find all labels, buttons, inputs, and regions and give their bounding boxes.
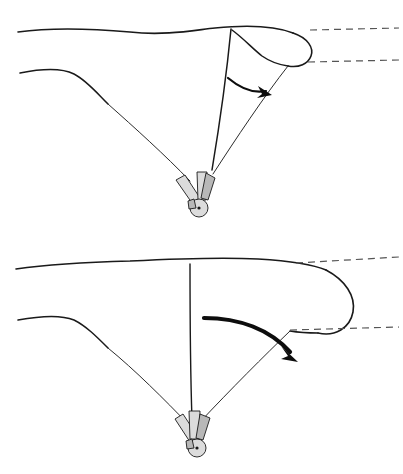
figure-root: Paraglider Wingtip Deflection Comparison <box>0 0 403 474</box>
bottom-canopy-leading-edge <box>16 258 326 270</box>
bottom-pilot-centre-dot <box>195 446 198 449</box>
diagram-canvas <box>0 0 403 474</box>
top-left-lower-surface <box>20 69 108 104</box>
panel-bottom <box>16 257 399 457</box>
top-riser-plate-left <box>176 175 200 203</box>
bottom-canopy-inner-fold <box>290 331 318 333</box>
top-dashed-reference-lower <box>308 60 399 62</box>
top-canopy-leading-edge <box>18 26 293 33</box>
bottom-deflection-arrow-icon <box>204 318 298 362</box>
top-deflection-arrow-icon <box>228 78 272 98</box>
top-left-riser-line <box>108 104 190 181</box>
panel-top <box>18 26 399 217</box>
bottom-arrow-curve <box>204 318 290 352</box>
top-pilot-centre-dot <box>197 206 200 209</box>
top-dashed-reference-upper <box>310 28 399 30</box>
top-harness-assembly <box>176 172 215 217</box>
bottom-left-lower-surface <box>18 316 108 348</box>
bottom-dashed-reference-upper <box>296 257 399 263</box>
top-centre-rib <box>212 29 231 170</box>
bottom-centre-rib <box>190 264 192 420</box>
bottom-harness-assembly <box>175 411 210 457</box>
bottom-canopy-tip-outer <box>318 270 353 334</box>
top-canopy-inner-fold <box>232 30 288 66</box>
bottom-left-riser-line <box>108 348 188 424</box>
bottom-right-riser-line <box>200 331 290 422</box>
